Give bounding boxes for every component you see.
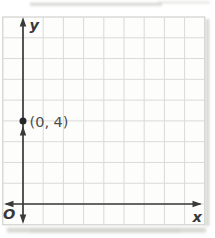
y-axis-label: y (30, 17, 40, 33)
paper-edge-right (206, 19, 210, 226)
paper-edge-bottom-2 (30, 229, 180, 232)
coordinate-plane-figure: y x O (0, 4) (0, 0, 215, 238)
origin-label: O (3, 206, 15, 222)
plotted-point (20, 117, 27, 124)
textbook-figure: y x O (0, 4) (0, 0, 215, 238)
point-coordinates-label: (0, 4) (30, 114, 69, 130)
paper-edge-top-right (158, 1, 210, 4)
paper-edge-top (30, 3, 162, 7)
x-axis-label: x (192, 209, 203, 225)
